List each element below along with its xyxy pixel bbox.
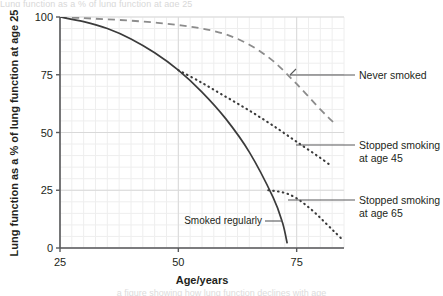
label-stopped-45-line2: at age 45 (359, 152, 403, 164)
x-axis-title: Age/years (176, 274, 229, 286)
x-tick-label: 25 (54, 256, 66, 268)
series-group (60, 17, 342, 243)
series-smoked-regularly (60, 17, 287, 243)
x-tick-label: 50 (172, 256, 184, 268)
lung-function-chart: 1007550250 255075 Lung function as a % o… (0, 0, 443, 296)
label-stopped-65-line1: Stopped smoking (359, 194, 440, 206)
series-stopped-smoking-at-45 (178, 70, 329, 165)
series-never-smoked (60, 17, 335, 123)
leader-line-never-smoked-tip (290, 69, 296, 75)
y-tick-label: 50 (41, 127, 53, 139)
label-stopped-65-line2: at age 65 (359, 207, 403, 219)
label-stopped-45-line1: Stopped smoking (359, 139, 440, 151)
y-axis-title: Lung function as a % of lung function at… (8, 10, 20, 257)
label-never-smoked: Never smoked (359, 69, 427, 81)
y-tick-label: 75 (41, 69, 53, 81)
bottom-cropped-text-artifact: a figure showing how lung function decli… (0, 288, 443, 296)
label-smoked-regularly: Smoked regularly (184, 215, 262, 226)
y-tick-label: 0 (47, 242, 53, 254)
lung-function-figure: Lung function as a % of lung function at… (0, 0, 443, 296)
y-axis-tick-labels: 1007550250 (35, 11, 53, 254)
y-tick-label: 100 (35, 11, 53, 23)
x-axis-tick-labels: 255075 (54, 256, 303, 268)
x-tick-label: 75 (291, 256, 303, 268)
y-tick-label: 25 (41, 184, 53, 196)
